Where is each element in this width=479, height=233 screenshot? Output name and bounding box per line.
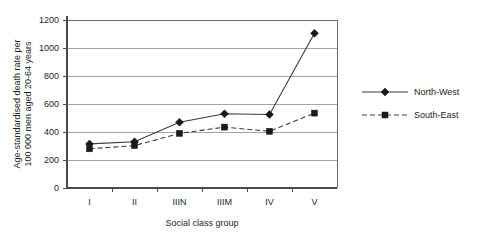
chart-figure: 1200 1000 800 600 400 200 0 I II IIIN II… [0, 0, 479, 233]
x-tick-label-I: I [88, 197, 91, 207]
y-tick-label-600: 600 [44, 99, 59, 109]
square-marker-icon [382, 112, 388, 118]
x-tick-label-IIIM: IIIM [217, 197, 232, 207]
y-tick-label-400: 400 [44, 127, 59, 137]
x-tick-label-IV: IV [265, 197, 274, 207]
legend-label-south-east: South-East [414, 110, 459, 120]
south-east-point-IIIN [177, 130, 183, 136]
y-tick-label-800: 800 [44, 71, 59, 81]
x-tick-label-IIIN: IIIN [172, 197, 186, 207]
south-east-point-IIIM [222, 124, 228, 130]
y-tick-label-0: 0 [54, 183, 59, 193]
y-tick-label-200: 200 [44, 155, 59, 165]
legend-label-north-west: North-West [414, 87, 460, 97]
y-axis-title: Age-standardised death rate per 100 000 … [12, 39, 33, 168]
y-axis-title-line1: Age-standardised death rate per [12, 39, 22, 168]
south-east-point-V [312, 110, 318, 116]
y-tick-label-1200: 1200 [39, 15, 59, 25]
y-tick-label-1000: 1000 [39, 43, 59, 53]
x-axis-title: Social class group [165, 218, 238, 228]
x-tick-label-II: II [132, 197, 137, 207]
south-east-point-IV [267, 128, 273, 134]
chart-background [0, 0, 479, 233]
y-axis-title-line2: 100 000 men aged 20-64 years [23, 41, 33, 167]
line-chart: 1200 1000 800 600 400 200 0 I II IIIN II… [0, 0, 479, 233]
x-tick-label-V: V [311, 197, 317, 207]
